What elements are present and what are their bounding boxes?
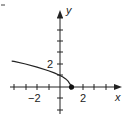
closed-endpoint-dot xyxy=(69,84,74,89)
x-axis-arrow-icon xyxy=(114,84,122,90)
function-curve xyxy=(12,61,72,87)
graph: y x −2 2 2 xyxy=(0,0,129,128)
y-axis-label: y xyxy=(65,4,73,16)
y-axis-arrow-icon xyxy=(57,10,63,18)
x-axis-label: x xyxy=(114,91,121,103)
y-tick-label-2: 2 xyxy=(47,58,53,70)
x-tick-label-neg2: −2 xyxy=(28,92,41,104)
x-tick-label-2: 2 xyxy=(80,92,86,104)
